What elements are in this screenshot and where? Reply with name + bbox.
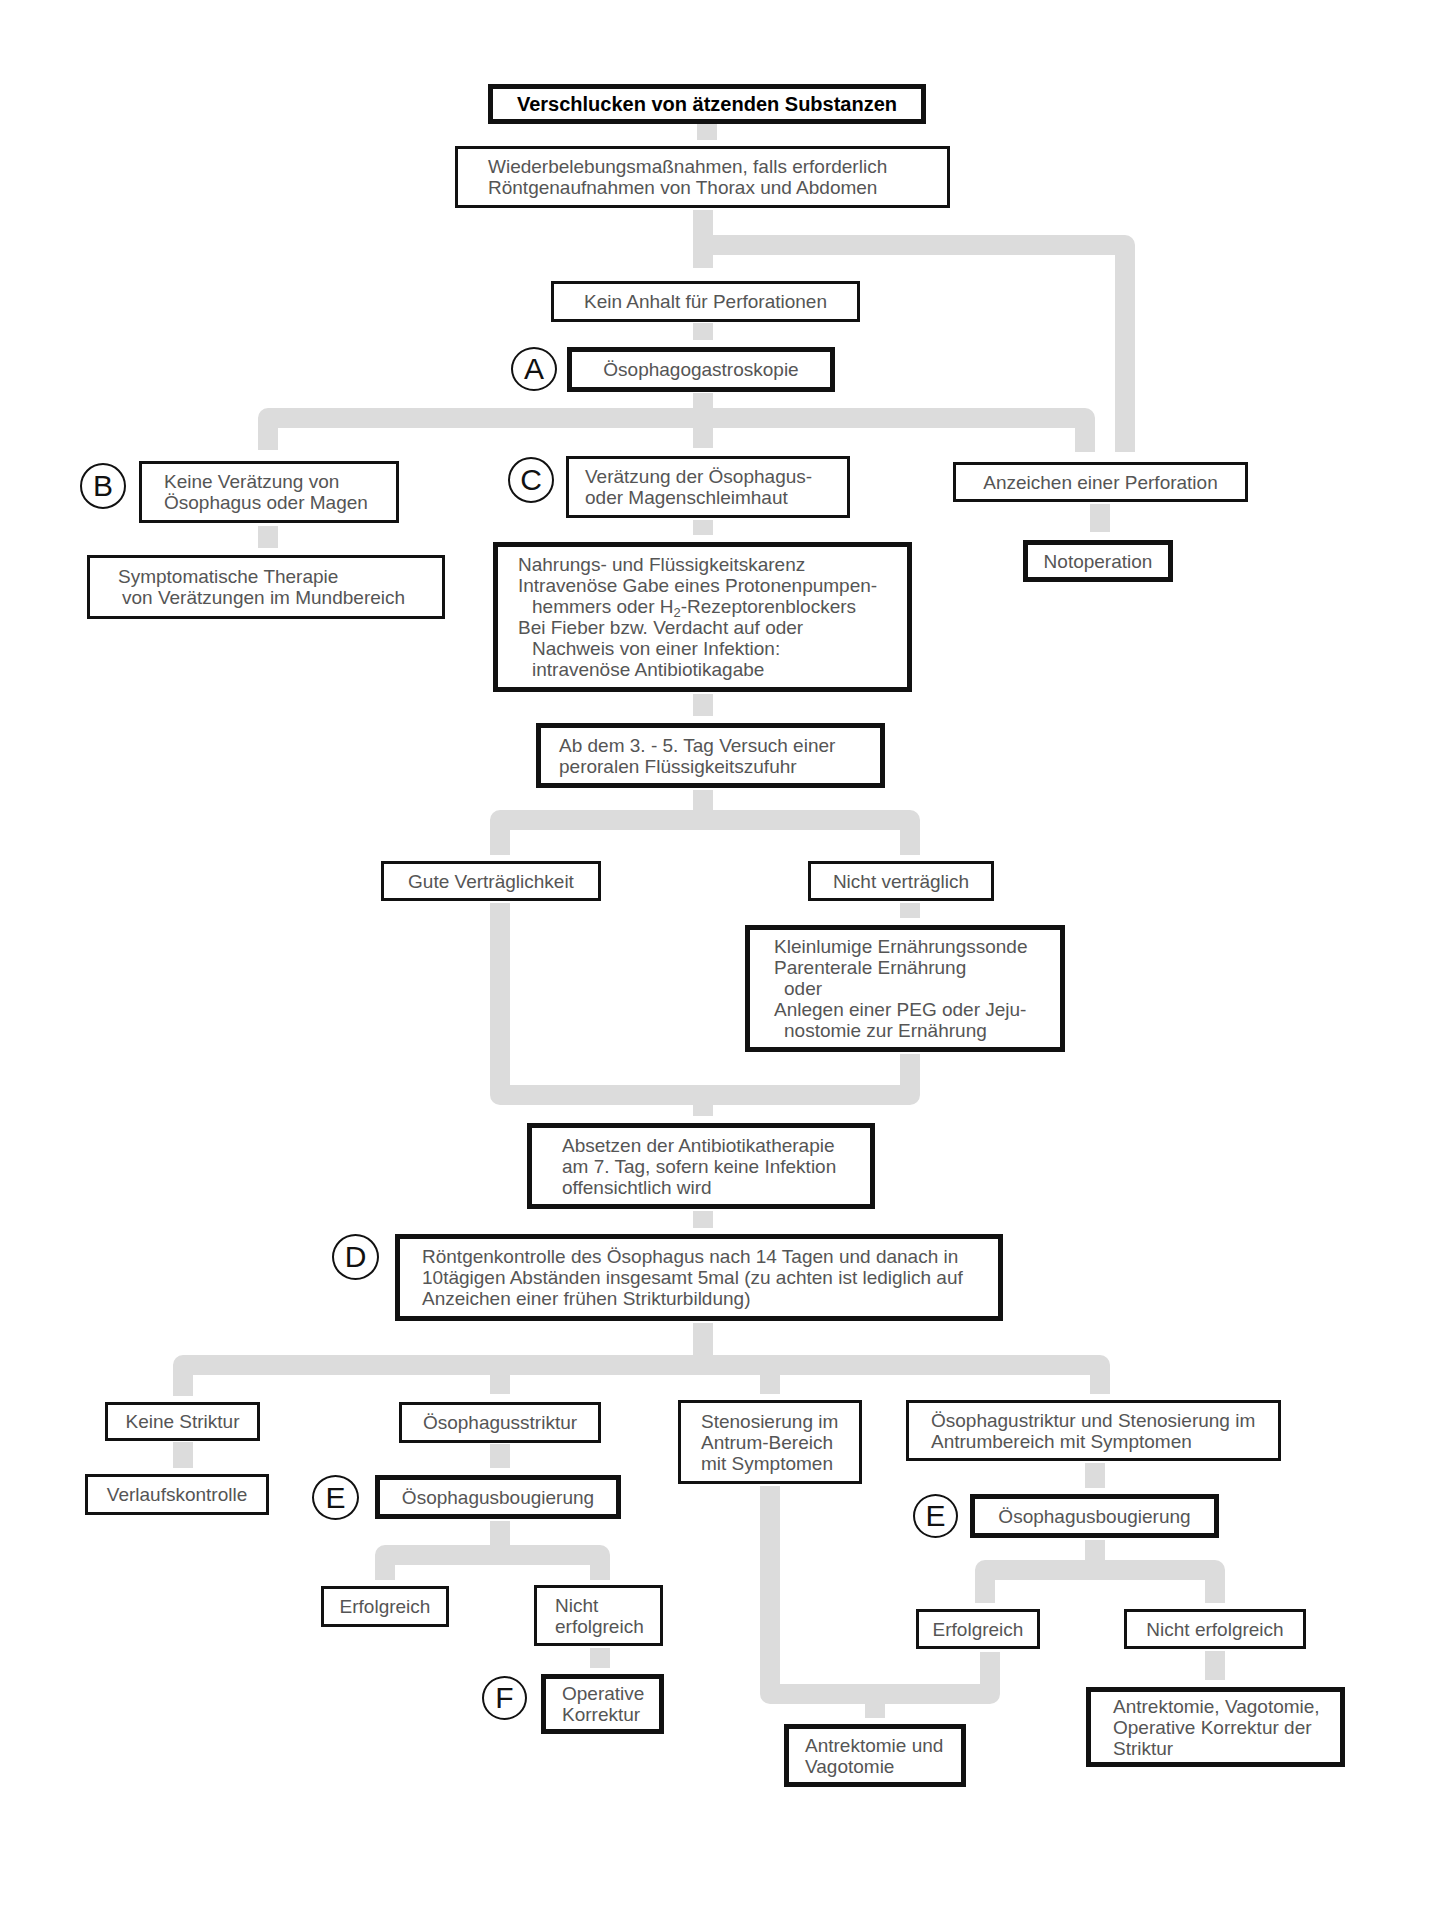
node-line: Absetzen der Antibiotikatherapie bbox=[562, 1135, 856, 1156]
node-failure: Nicht erfolgreich bbox=[1124, 1609, 1306, 1649]
node-bougienage: Ösophagusbougierung bbox=[375, 1475, 621, 1519]
node-perforation-signs: Anzeichen einer Perforation bbox=[953, 462, 1248, 502]
text-fragment: -Rezeptorenblockers bbox=[681, 596, 856, 617]
marker-e: E bbox=[913, 1494, 958, 1538]
node-xray-control: Röntgenkontrolle des Ösophagus nach 14 T… bbox=[395, 1234, 1003, 1321]
node-no-perforation: Kein Anhalt für Perforationen bbox=[551, 281, 860, 322]
node-resuscitation: Wiederbelebungsmaßnahmen, falls erforder… bbox=[455, 146, 950, 208]
node-endoscopy: Ösophagogastroskopie bbox=[567, 347, 835, 392]
node-line: Antrum-Bereich bbox=[701, 1432, 845, 1453]
node-line: Bei Fieber bzw. Verdacht auf oder bbox=[518, 617, 893, 638]
node-line: Symptomatische Therapie bbox=[118, 566, 428, 587]
node-line: Korrektur bbox=[562, 1704, 645, 1725]
node-line: peroralen Flüssigkeitszufuhr bbox=[559, 756, 866, 777]
node-antrectomy-full: Antrektomie, Vagotomie, Operative Korrek… bbox=[1086, 1687, 1345, 1767]
node-line: Röntgenaufnahmen von Thorax und Abdomen bbox=[488, 177, 933, 198]
node-emergency-op: Notoperation bbox=[1023, 540, 1173, 582]
node-fasting: Nahrungs- und Flüssigkeitskarenz Intrave… bbox=[493, 542, 912, 692]
marker-b: B bbox=[80, 463, 126, 509]
node-line: Verätzung der Ösophagus- bbox=[585, 466, 833, 487]
node-line: Anzeichen einer frühen Strikturbildung) bbox=[422, 1288, 984, 1309]
node-line: Antrumbereich mit Symptomen bbox=[931, 1431, 1264, 1452]
node-line: Nahrungs- und Flüssigkeitskarenz bbox=[518, 554, 893, 575]
node-failure: Nicht erfolgreich bbox=[534, 1585, 663, 1646]
node-line: nostomie zur Ernährung bbox=[774, 1020, 1046, 1041]
node-line: Striktur bbox=[1113, 1738, 1326, 1759]
node-line: intravenöse Antibiotikagabe bbox=[518, 659, 893, 680]
node-line: Intravenöse Gabe eines Protonenpumpen- bbox=[518, 575, 893, 596]
node-no-stricture: Keine Striktur bbox=[105, 1402, 260, 1441]
node-line: offensichtlich wird bbox=[562, 1177, 856, 1198]
start-node-title: Verschlucken von ätzenden Substanzen bbox=[488, 84, 926, 124]
marker-d: D bbox=[332, 1234, 379, 1280]
node-success: Erfolgreich bbox=[916, 1609, 1040, 1649]
node-antrum-stenosis: Stenosierung im Antrum-Bereich mit Sympt… bbox=[678, 1400, 862, 1484]
node-line: Kleinlumige Ernährungssonde bbox=[774, 936, 1046, 957]
text-fragment: hemmers oder H bbox=[532, 596, 674, 617]
node-not-tolerated: Nicht verträglich bbox=[808, 861, 994, 901]
node-line: Keine Verätzung von bbox=[164, 471, 382, 492]
flowchart: Verschlucken von ätzenden Substanzen Wie… bbox=[0, 0, 1436, 1905]
node-line: erfolgreich bbox=[555, 1616, 646, 1637]
node-line: Stenosierung im bbox=[701, 1411, 845, 1432]
node-line: oder bbox=[774, 978, 1046, 999]
marker-e: E bbox=[312, 1475, 359, 1520]
node-bougienage: Ösophagusbougierung bbox=[970, 1494, 1219, 1538]
node-line: mit Symptomen bbox=[701, 1453, 845, 1474]
node-line: Antrektomie und bbox=[805, 1735, 947, 1756]
node-line: Anlegen einer PEG oder Jeju- bbox=[774, 999, 1046, 1020]
node-symptomatic: Symptomatische Therapie von Verätzungen … bbox=[87, 555, 445, 619]
node-line: Wiederbelebungsmaßnahmen, falls erforder… bbox=[488, 156, 933, 177]
node-follow-up: Verlaufskontrolle bbox=[85, 1474, 269, 1515]
node-no-burn: Keine Verätzung von Ösophagus oder Magen bbox=[139, 461, 399, 523]
node-nutrition: Kleinlumige Ernährungssonde Parenterale … bbox=[745, 925, 1065, 1052]
node-line: Vagotomie bbox=[805, 1756, 947, 1777]
node-antrectomy: Antrektomie und Vagotomie bbox=[784, 1724, 966, 1787]
node-line: Ösophagustriktur und Stenosierung im bbox=[931, 1410, 1264, 1431]
node-line: am 7. Tag, sofern keine Infektion bbox=[562, 1156, 856, 1177]
node-esophageal-stricture: Ösophagusstriktur bbox=[399, 1402, 601, 1443]
node-line: hemmers oder H2-Rezeptorenblockers bbox=[518, 596, 893, 617]
node-burn: Verätzung der Ösophagus- oder Magenschle… bbox=[566, 456, 850, 518]
node-line: 10tägigen Abständen insgesamt 5mal (zu a… bbox=[422, 1267, 984, 1288]
node-stop-antibiotics: Absetzen der Antibiotikatherapie am 7. T… bbox=[527, 1123, 875, 1209]
node-line: Nachweis von einer Infektion: bbox=[518, 638, 893, 659]
marker-f: F bbox=[482, 1676, 527, 1720]
node-combined-stenosis: Ösophagustriktur und Stenosierung im Ant… bbox=[906, 1400, 1281, 1461]
node-success: Erfolgreich bbox=[321, 1586, 449, 1627]
node-line: Operative Korrektur der bbox=[1113, 1717, 1326, 1738]
marker-c: C bbox=[508, 457, 554, 503]
node-line: Ösophagus oder Magen bbox=[164, 492, 382, 513]
node-line: oder Magenschleimhaut bbox=[585, 487, 833, 508]
marker-a: A bbox=[511, 347, 557, 391]
node-line: Nicht bbox=[555, 1595, 646, 1616]
node-line: von Verätzungen im Mundbereich bbox=[118, 587, 428, 608]
node-line: Röntgenkontrolle des Ösophagus nach 14 T… bbox=[422, 1246, 984, 1267]
node-tolerated: Gute Verträglichkeit bbox=[381, 861, 601, 901]
node-surgical-correction: Operative Korrektur bbox=[541, 1674, 664, 1734]
node-line: Ab dem 3. - 5. Tag Versuch einer bbox=[559, 735, 866, 756]
node-oral-trial: Ab dem 3. - 5. Tag Versuch einer peroral… bbox=[536, 723, 885, 788]
node-line: Antrektomie, Vagotomie, bbox=[1113, 1696, 1326, 1717]
node-line: Parenterale Ernährung bbox=[774, 957, 1046, 978]
node-line: Operative bbox=[562, 1683, 645, 1704]
